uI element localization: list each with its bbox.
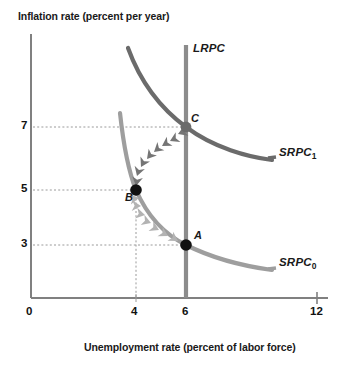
- lrpc-curve-label: LRPC: [193, 42, 225, 54]
- arrow-chain-b-to-c: [131, 126, 189, 187]
- srpc0-label-subscript: 0: [312, 261, 317, 271]
- srpc1-label-text: SRPC: [279, 146, 312, 158]
- y-axis-tick-label-7: 7: [21, 119, 27, 131]
- x-axis-tick-label-0: 0: [26, 305, 32, 317]
- srpc1-label-leader: [268, 157, 276, 158]
- srpc0-curve: [120, 113, 272, 270]
- data-point-a-label: A: [194, 229, 202, 241]
- x-axis-tick-label-4: 4: [131, 305, 137, 317]
- phillips-curve-figure: Inflation rate (percent per year) Unempl…: [0, 0, 338, 365]
- data-point-a: [180, 239, 192, 251]
- x-axis-tick-label-6: 6: [182, 305, 188, 317]
- y-axis-tick-label-3: 3: [21, 237, 27, 249]
- srpc1-curve: [128, 48, 272, 160]
- srpc0-label-text: SRPC: [279, 256, 312, 268]
- srpc0-curve-label: SRPC0: [279, 256, 317, 271]
- data-point-c: [181, 122, 192, 133]
- srpc1-label-subscript: 1: [312, 151, 317, 161]
- data-point-b-label: B: [125, 191, 133, 203]
- y-axis-tick-label-5: 5: [21, 182, 27, 194]
- srpc0-label-leader: [268, 268, 276, 269]
- x-axis-tick-label-12: 12: [310, 305, 323, 317]
- data-point-c-label: C: [191, 112, 199, 124]
- srpc1-curve-label: SRPC1: [279, 146, 317, 161]
- y-axis-title: Inflation rate (percent per year): [18, 10, 169, 22]
- x-axis-title: Unemployment rate (percent of labor forc…: [84, 341, 296, 353]
- chart-canvas: [0, 0, 338, 365]
